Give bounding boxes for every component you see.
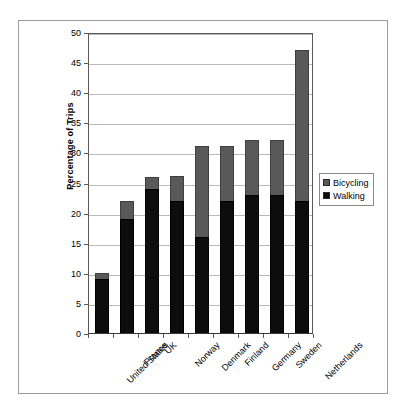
legend-label: Walking bbox=[333, 191, 365, 201]
y-axis-title: Percentage of Trips bbox=[65, 81, 75, 211]
bar-group[interactable] bbox=[270, 140, 284, 333]
legend-item[interactable]: Bicycling bbox=[323, 176, 369, 189]
legend-item[interactable]: Walking bbox=[323, 189, 369, 202]
bar-group[interactable] bbox=[245, 140, 259, 333]
bar-segment-bicycling[interactable] bbox=[295, 50, 309, 201]
x-tick-mark bbox=[188, 334, 189, 338]
bar-segment-walking[interactable] bbox=[295, 201, 309, 333]
bar-segment-bicycling[interactable] bbox=[120, 201, 134, 219]
bar-segment-bicycling[interactable] bbox=[220, 146, 234, 200]
bar-segment-walking[interactable] bbox=[245, 195, 259, 333]
gridline bbox=[89, 64, 312, 65]
y-tick-label: 0 bbox=[55, 329, 81, 339]
x-tick-mark bbox=[313, 334, 314, 338]
plot-area bbox=[88, 33, 313, 334]
x-tick-mark bbox=[113, 334, 114, 338]
y-tick-label: 20 bbox=[55, 209, 81, 219]
x-tick-mark bbox=[238, 334, 239, 338]
legend-swatch-icon bbox=[323, 179, 330, 186]
bar-group[interactable] bbox=[95, 273, 109, 333]
gridline bbox=[89, 124, 312, 125]
x-tick-label: Netherlands bbox=[323, 340, 364, 381]
bar-group[interactable] bbox=[170, 176, 184, 333]
bar-group[interactable] bbox=[220, 146, 234, 333]
legend-label: Bicycling bbox=[333, 178, 369, 188]
bar-segment-bicycling[interactable] bbox=[195, 146, 209, 236]
legend-swatch-icon bbox=[323, 192, 330, 199]
y-tick-label: 45 bbox=[55, 58, 81, 68]
gridline bbox=[89, 34, 312, 35]
x-tick-mark bbox=[213, 334, 214, 338]
bar-segment-walking[interactable] bbox=[195, 237, 209, 333]
y-tick-label: 5 bbox=[55, 299, 81, 309]
x-tick-mark bbox=[163, 334, 164, 338]
x-tick-label: France bbox=[142, 340, 169, 367]
y-tick-label: 10 bbox=[55, 269, 81, 279]
gridline bbox=[89, 94, 312, 95]
bar-segment-walking[interactable] bbox=[220, 201, 234, 333]
bar-segment-bicycling[interactable] bbox=[170, 176, 184, 200]
y-tick-label: 15 bbox=[55, 239, 81, 249]
x-tick-mark bbox=[88, 334, 89, 338]
bar-segment-bicycling[interactable] bbox=[145, 177, 159, 189]
bar-segment-walking[interactable] bbox=[270, 195, 284, 333]
bar-segment-bicycling[interactable] bbox=[245, 140, 259, 194]
y-tick-label: 50 bbox=[55, 28, 81, 38]
bar-segment-walking[interactable] bbox=[120, 219, 134, 333]
y-tick-label: 30 bbox=[55, 148, 81, 158]
bar-segment-walking[interactable] bbox=[145, 189, 159, 333]
x-tick-mark bbox=[288, 334, 289, 338]
bar-group[interactable] bbox=[195, 146, 209, 333]
bar-group[interactable] bbox=[295, 50, 309, 333]
chart-figure-frame: Percentage of Trips 05101520253035404550… bbox=[18, 20, 388, 394]
y-tick-label: 25 bbox=[55, 179, 81, 189]
bar-group[interactable] bbox=[120, 201, 134, 333]
bar-segment-bicycling[interactable] bbox=[270, 140, 284, 194]
x-tick-label: Norway bbox=[192, 340, 221, 369]
bar-group[interactable] bbox=[145, 177, 159, 334]
bar-segment-walking[interactable] bbox=[170, 201, 184, 333]
x-tick-mark bbox=[138, 334, 139, 338]
y-tick-label: 40 bbox=[55, 88, 81, 98]
bar-segment-walking[interactable] bbox=[95, 279, 109, 333]
x-tick-mark bbox=[263, 334, 264, 338]
y-tick-label: 35 bbox=[55, 118, 81, 128]
chart-legend: BicyclingWalking bbox=[319, 173, 374, 206]
x-tick-label: Germany bbox=[269, 340, 302, 373]
